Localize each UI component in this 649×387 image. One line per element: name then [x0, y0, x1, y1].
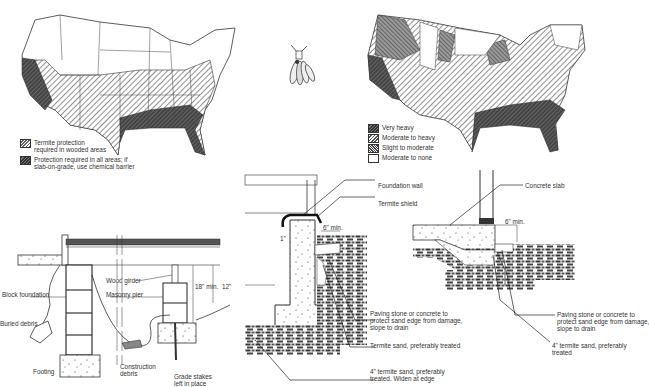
label-construction-debris: Constructiondebris — [120, 363, 156, 377]
slab-drawing — [405, 170, 621, 330]
blank-swatch — [368, 154, 379, 163]
winged-termite-icon — [285, 40, 325, 90]
map-termite-protection: Termite protectionrequired in wooded are… — [0, 0, 260, 195]
light-hatch-swatch — [20, 139, 31, 148]
dark-hatch-swatch — [20, 156, 31, 165]
map-termite-severity: Very heavy Moderate to heavy Slight to m… — [360, 0, 621, 170]
legend-protection: Termite protectionrequired in wooded are… — [20, 139, 135, 173]
label-masonry-pier: Masonry pier — [106, 291, 143, 298]
crawlspace-diagram: Block foundation Buried debris Footing W… — [0, 225, 230, 383]
label-18-min: 18" min. — [195, 283, 218, 290]
legend-item-slight-moderate: Slight to moderate — [368, 144, 435, 153]
label-6-min: 6" min. — [505, 218, 525, 225]
legend-item-very-heavy: Very heavy — [368, 124, 435, 133]
legend-label: Termite protection — [34, 139, 85, 146]
legend-severity: Very heavy Moderate to heavy Slight to m… — [368, 124, 435, 164]
label-6-min: 6" min. — [323, 224, 343, 231]
legend-label: Moderate to none — [382, 154, 432, 161]
label-1-inch: 1" — [280, 235, 286, 242]
slab-diagram: Concrete slab 6" min. Paving stone or co… — [405, 170, 621, 330]
label-paving-stone: Paving stone or concrete toprotect sand … — [557, 311, 649, 333]
legend-label: Slight to moderate — [382, 144, 434, 151]
dark-hatch-swatch — [368, 124, 379, 133]
label-slab-4in-sand: 4" termite sand, preferablytreated — [552, 342, 627, 356]
label-12-inch: 12" — [222, 283, 231, 290]
crawlspace-drawing — [0, 225, 230, 383]
label-grade-stakes: Grade stakesleft in place — [174, 373, 212, 387]
legend-item-wooded: Termite protectionrequired in wooded are… — [20, 139, 135, 153]
foundation-wall-diagram: Foundation wall Termite shield 6" min. 1… — [245, 175, 405, 383]
legend-item-moderate-heavy: Moderate to heavy — [368, 134, 435, 143]
legend-label: required in wooded areas — [34, 146, 106, 153]
label-wood-girder: Wood girder — [106, 277, 141, 284]
cross-hatch-swatch — [368, 144, 379, 153]
label-concrete-slab: Concrete slab — [525, 182, 564, 189]
legend-item-moderate-none: Moderate to none — [368, 154, 435, 163]
label-buried-debris: Buried debris — [0, 320, 38, 327]
label-4in-sand: 4" termite sand, preferablytreated. Wide… — [370, 368, 445, 382]
label-termite-sand: Termite sand, preferably treated — [370, 342, 460, 349]
legend-label: Moderate to heavy — [382, 134, 435, 141]
legend-item-all-areas: Protection required in all areas; ifslab… — [20, 156, 135, 170]
label-footing: Footing — [33, 368, 54, 375]
medium-hatch-swatch — [368, 134, 379, 143]
legend-label: Protection required in all areas; if — [34, 156, 127, 163]
label-block-foundation: Block foundation — [2, 291, 49, 298]
legend-label: slab-on-grade, use chemical barrier — [34, 163, 135, 170]
legend-label: Very heavy — [382, 124, 414, 131]
